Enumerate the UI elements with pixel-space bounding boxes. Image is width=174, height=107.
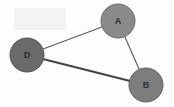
graph-svg: ADB — [0, 0, 174, 107]
node-label-a: A — [115, 16, 122, 26]
background-smudge — [14, 8, 66, 30]
graph-node-a[interactable]: A — [101, 4, 135, 38]
graph-canvas: ADB — [0, 0, 174, 107]
node-label-b: B — [143, 80, 150, 90]
graph-node-d[interactable]: D — [10, 38, 44, 72]
node-label-d: D — [24, 50, 31, 60]
graph-node-b[interactable]: B — [129, 68, 163, 102]
background-texture-layer — [14, 8, 66, 30]
